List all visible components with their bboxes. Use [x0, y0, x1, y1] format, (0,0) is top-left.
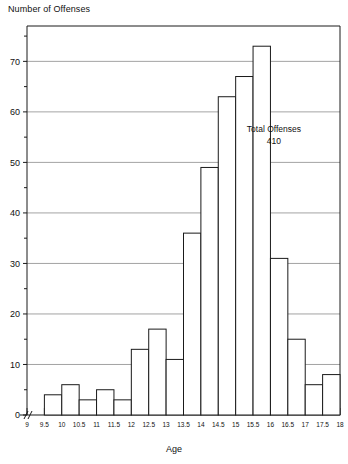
histogram-bar: [201, 167, 218, 415]
histogram-bar: [253, 46, 270, 415]
histogram-bar: [62, 385, 79, 415]
y-tick-label: 70: [10, 57, 20, 67]
x-tick-label: 11: [93, 421, 100, 428]
x-tick-label: 10: [58, 421, 66, 428]
x-tick-label: 14.5: [212, 421, 225, 428]
histogram-bar: [79, 400, 96, 415]
histogram-bar: [97, 390, 114, 415]
histogram-bar: [184, 233, 201, 415]
histogram-bar: [270, 258, 287, 415]
x-tick-label: 13: [162, 421, 170, 428]
offenses-by-age-histogram: Number of Offenses 01020304050607099.510…: [0, 0, 348, 464]
histogram-bar: [44, 395, 61, 415]
histogram-bar: [323, 375, 340, 415]
x-tick-label: 12.5: [142, 421, 155, 428]
x-tick-label: 18: [336, 421, 344, 428]
y-tick-label: 20: [10, 309, 20, 319]
x-tick-label: 15: [232, 421, 240, 428]
histogram-bar: [149, 329, 166, 415]
x-tick-label: 13.5: [177, 421, 190, 428]
y-tick-label: 50: [10, 158, 20, 168]
y-tick-label: 30: [10, 259, 20, 269]
annotation-line-2: 410: [267, 136, 281, 146]
x-tick-label: 9: [25, 421, 29, 428]
histogram-bar: [166, 359, 183, 415]
histogram-bar: [218, 97, 235, 415]
x-tick-label: 17.5: [316, 421, 329, 428]
x-tick-label: 12: [128, 421, 136, 428]
x-tick-label: 16: [267, 421, 275, 428]
histogram-bar: [131, 349, 148, 415]
y-tick-label: 0: [15, 410, 20, 420]
x-tick-label: 9.5: [40, 421, 49, 428]
y-tick-label: 10: [10, 360, 20, 370]
x-axis-title: Age: [0, 444, 348, 454]
x-tick-label: 17: [302, 421, 310, 428]
y-tick-label: 60: [10, 107, 20, 117]
x-tick-label: 14: [197, 421, 205, 428]
y-tick-label: 40: [10, 208, 20, 218]
histogram-bar: [288, 339, 305, 415]
histogram-bar: [114, 400, 131, 415]
histogram-bar: [305, 385, 322, 415]
x-tick-label: 16.5: [282, 421, 295, 428]
annotation-line-1: Total Offenses: [247, 124, 301, 134]
x-tick-label: 10.5: [73, 421, 86, 428]
x-tick-label: 15.5: [247, 421, 260, 428]
x-tick-label: 11.5: [108, 421, 121, 428]
histogram-plot-area: 01020304050607099.51010.51111.51212.5131…: [0, 0, 348, 464]
